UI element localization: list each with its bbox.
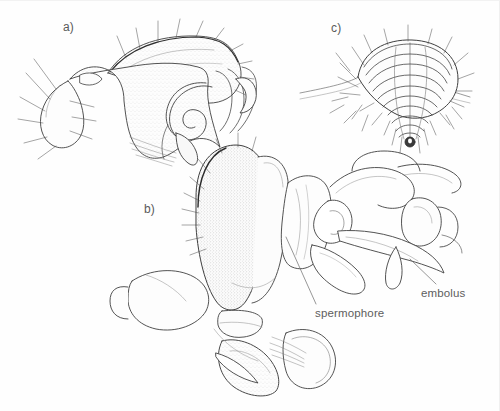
panel-a-drawing [18,19,256,166]
panel-label-c: c) [331,21,341,35]
callout-label-spermophore: spermophore [315,307,384,319]
panel-b-drawing [110,133,462,396]
panel-label-b: b) [144,202,155,216]
panel-c-drawing [300,25,474,153]
panel-label-a: a) [63,20,74,34]
callout-label-embolus: embolus [421,287,466,299]
figure-illustration [0,1,500,411]
figure-plate: a) b) c) spermophore embolus [0,0,500,411]
